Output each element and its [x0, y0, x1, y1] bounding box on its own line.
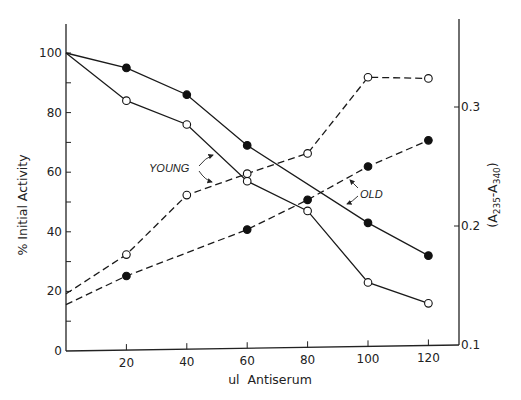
arrow-icon — [347, 196, 358, 204]
y2-title-part: (A — [485, 214, 500, 228]
axes: 020406080100204060801001200.10.20.3 — [39, 19, 480, 370]
filled-circle-marker — [364, 219, 372, 227]
y-tick-label: 100 — [39, 46, 62, 60]
open-circle-marker — [243, 170, 251, 178]
open-circle-marker — [243, 177, 251, 185]
filled-circle-marker — [123, 64, 131, 72]
filled-circle-marker — [123, 272, 131, 280]
y-axis-title: % Initial Activity — [15, 154, 30, 256]
y2-title-sub: 340 — [492, 167, 502, 184]
x-tick-label: 40 — [179, 355, 194, 369]
filled-circle-marker — [243, 142, 251, 150]
open-circle-marker — [364, 73, 372, 81]
open-circle-marker — [183, 121, 191, 129]
x-tick-label: 100 — [357, 352, 380, 366]
series-young_activity — [66, 53, 432, 307]
y2-tick-label: 0.2 — [461, 219, 480, 233]
open-circle-marker — [364, 279, 372, 287]
filled-circle-marker — [425, 252, 433, 260]
x-tick-label: 60 — [240, 354, 255, 368]
y-tick-label: 60 — [47, 165, 62, 179]
filled-circle-marker — [183, 91, 191, 99]
open-circle-marker — [123, 251, 131, 259]
y2-axis-title: (A235-A340) — [485, 162, 502, 228]
y-tick-label: 40 — [47, 225, 62, 239]
x-tick-label: 80 — [300, 353, 315, 367]
filled-circle-marker — [425, 137, 433, 145]
y2-title-sub: 235 — [492, 197, 502, 214]
arrow-icon — [199, 155, 213, 166]
series-old_absorbance — [66, 137, 432, 305]
open-circle-marker — [123, 97, 131, 105]
x-tick-label: 20 — [119, 356, 134, 370]
open-circle-marker — [304, 207, 312, 215]
y2-tick-label: 0.1 — [461, 338, 480, 352]
y2-title-part: -A — [485, 184, 500, 197]
filled-circle-marker — [243, 226, 251, 234]
filled-circle-marker — [304, 196, 312, 204]
chart: 020406080100204060801001200.10.20.3 YOUN… — [0, 0, 521, 400]
open-circle-marker — [183, 191, 191, 199]
x-axis-line — [66, 345, 459, 351]
annotation-old: OLD — [360, 188, 383, 200]
x-tick-label: 120 — [417, 351, 440, 365]
y2-tick-label: 0.3 — [461, 100, 480, 114]
arrow-icon — [350, 180, 358, 188]
open-circle-marker — [304, 150, 312, 158]
open-circle-marker — [425, 75, 433, 83]
filled-circle-marker — [364, 163, 372, 171]
series-line — [66, 140, 428, 304]
y-tick-label: 20 — [47, 284, 62, 298]
open-circle-marker — [425, 300, 433, 308]
series-line — [66, 77, 428, 294]
series-layer — [66, 53, 432, 307]
x-axis-title: ul Antiserum — [228, 372, 312, 387]
y-tick-label: 0 — [54, 344, 62, 358]
y2-title-part: ) — [485, 162, 500, 167]
annotation-young: YOUNG — [149, 162, 190, 174]
y-tick-label: 80 — [47, 106, 62, 120]
arrow-icon — [199, 171, 212, 182]
